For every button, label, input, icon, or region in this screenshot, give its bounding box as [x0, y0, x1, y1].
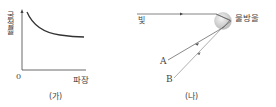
x-axis-label: 파장 — [73, 76, 89, 85]
origin-label: 0 — [16, 73, 21, 81]
light-ray — [137, 13, 216, 16]
droplet-label: 물방울 — [235, 14, 259, 23]
caption-b: (나) — [185, 93, 198, 101]
y-axis-label: 굴절률 — [5, 11, 13, 35]
refractive-index-curve — [27, 12, 84, 37]
ray-b-label: B — [166, 75, 173, 84]
light-label: 빛 — [136, 16, 144, 24]
caption-a: (가) — [49, 93, 62, 101]
y-axis-arrow-icon — [21, 9, 24, 13]
light-arrow-icon — [180, 13, 183, 16]
ray-b — [174, 28, 222, 78]
ray-a-label: A — [160, 57, 167, 66]
